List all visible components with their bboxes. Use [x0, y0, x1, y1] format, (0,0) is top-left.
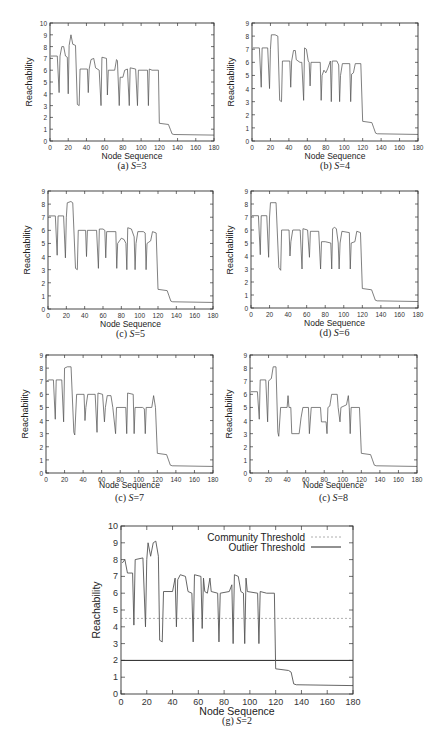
- x-tick-label: 100: [134, 312, 145, 319]
- x-tick-label: 40: [79, 476, 86, 483]
- plot-area: [252, 23, 418, 141]
- y-tick-label: 5: [39, 404, 43, 411]
- plot-area: [250, 355, 417, 473]
- y-tick-label: 8: [243, 365, 247, 372]
- y-tick-label: 3: [43, 102, 47, 109]
- y-tick-label: 1: [245, 124, 249, 131]
- chart-panel-c: Reachability Node Sequence (c) S=5 02040…: [48, 191, 213, 309]
- x-tick-label: 20: [65, 144, 72, 151]
- figure-caption: (a) S=3: [117, 160, 146, 171]
- x-tick-label: 40: [285, 144, 292, 151]
- y-tick-label: 9: [245, 20, 249, 27]
- y-tick-label: 1: [113, 672, 118, 682]
- x-tick-label: 80: [219, 697, 229, 707]
- y-tick-label: 6: [244, 227, 248, 234]
- y-tick-label: 5: [245, 72, 249, 79]
- y-tick-label: 6: [245, 59, 249, 66]
- y-tick-label: 9: [113, 538, 118, 548]
- y-tick-label: 2: [243, 443, 247, 450]
- x-tick-label: 120: [154, 144, 165, 151]
- chart-panel-e: Reachability Node Sequence (c) S=7 02040…: [46, 355, 213, 473]
- x-tick-label: 180: [208, 312, 219, 319]
- x-tick-label: 80: [322, 144, 329, 151]
- x-tick-label: 160: [394, 311, 405, 318]
- y-tick-label: 0: [39, 470, 43, 477]
- x-tick-label: 60: [98, 476, 105, 483]
- y-axis-label: Reachability: [24, 57, 34, 106]
- x-tick-label: 20: [266, 311, 273, 318]
- x-tick-label: 60: [302, 476, 309, 483]
- x-tick-label: 20: [142, 697, 152, 707]
- y-tick-label: 6: [43, 67, 47, 74]
- chart-panel-g: Reachability Node Sequence (g) S=2 Commu…: [121, 526, 353, 694]
- y-tick-label: 8: [39, 365, 43, 372]
- x-tick-label: 140: [171, 312, 182, 319]
- y-tick-label: 9: [243, 352, 247, 359]
- y-axis-label: Reachability: [224, 389, 234, 438]
- y-tick-label: 2: [244, 279, 248, 286]
- x-tick-label: 60: [101, 144, 108, 151]
- x-tick-label: 140: [172, 144, 183, 151]
- x-tick-label: 100: [136, 144, 147, 151]
- plot-area: [48, 191, 213, 309]
- y-tick-label: 5: [113, 605, 118, 615]
- x-tick-label: 120: [357, 311, 368, 318]
- y-tick-label: 4: [113, 622, 118, 632]
- x-tick-label: 80: [118, 312, 125, 319]
- y-tick-label: 3: [39, 430, 43, 437]
- x-tick-label: 180: [345, 697, 360, 707]
- y-axis-label: Reachability: [226, 57, 236, 106]
- y-tick-label: 4: [243, 417, 247, 424]
- y-tick-label: 9: [39, 352, 43, 359]
- y-tick-label: 8: [244, 201, 248, 208]
- x-tick-label: 20: [63, 312, 70, 319]
- y-tick-label: 2: [113, 655, 118, 665]
- data-series-line: [251, 367, 417, 467]
- y-tick-label: 7: [243, 378, 247, 385]
- x-tick-label: 100: [338, 311, 349, 318]
- x-tick-label: 60: [193, 697, 203, 707]
- x-tick-label: 160: [189, 476, 200, 483]
- y-tick-label: 0: [113, 689, 118, 699]
- x-tick-label: 0: [118, 697, 123, 707]
- y-tick-label: 9: [244, 188, 248, 195]
- y-tick-label: 9: [43, 31, 47, 38]
- figure-caption: (g) S=2: [222, 715, 252, 726]
- y-axis-label: Reachability: [20, 389, 30, 438]
- y-tick-label: 0: [245, 138, 249, 145]
- x-tick-label: 80: [119, 144, 126, 151]
- y-tick-label: 5: [43, 79, 47, 86]
- x-tick-label: 40: [284, 311, 291, 318]
- y-tick-label: 3: [41, 266, 45, 273]
- x-tick-label: 20: [265, 476, 272, 483]
- x-tick-label: 180: [412, 476, 423, 483]
- y-tick-label: 4: [245, 85, 249, 92]
- y-tick-label: 4: [41, 253, 45, 260]
- y-tick-label: 7: [113, 571, 118, 581]
- chart-panel-d: Reachability Node Sequence (d) S=6 02040…: [251, 191, 418, 308]
- plot-frame: [252, 23, 418, 141]
- y-tick-label: 3: [113, 639, 118, 649]
- x-tick-label: 80: [322, 311, 329, 318]
- figure-caption: (c) S=5: [116, 328, 145, 339]
- x-axis-label: Node Sequence: [303, 480, 364, 490]
- y-tick-label: 1: [243, 456, 247, 463]
- y-tick-label: 4: [43, 90, 47, 97]
- y-tick-label: 7: [43, 55, 47, 62]
- x-tick-label: 160: [189, 312, 200, 319]
- y-tick-label: 7: [39, 378, 43, 385]
- x-tick-label: 0: [249, 311, 253, 318]
- y-tick-label: 10: [40, 20, 47, 27]
- x-tick-label: 80: [117, 476, 124, 483]
- x-tick-label: 140: [374, 476, 385, 483]
- x-tick-label: 140: [376, 144, 387, 151]
- x-tick-label: 40: [168, 697, 178, 707]
- x-tick-label: 40: [283, 476, 290, 483]
- y-tick-label: 4: [39, 417, 43, 424]
- x-tick-label: 160: [394, 144, 405, 151]
- plot-frame: [250, 355, 417, 473]
- y-axis-label: Reachability: [225, 225, 235, 274]
- y-tick-label: 6: [39, 391, 43, 398]
- y-tick-label: 2: [43, 114, 47, 121]
- x-tick-label: 140: [294, 697, 309, 707]
